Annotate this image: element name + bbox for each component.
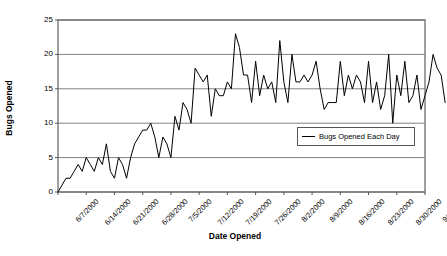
y-tick-label-25: 25 [33, 15, 53, 24]
y-tick-label-15: 15 [33, 84, 53, 93]
legend-item-label: Bugs Opened Each Day [319, 132, 399, 141]
y-tick-label-20: 20 [33, 49, 53, 58]
chart-legend: Bugs Opened Each Day [297, 127, 415, 146]
legend-line-swatch [302, 136, 315, 137]
y-tick-label-10: 10 [33, 118, 53, 127]
y-tick-label-0: 0 [33, 187, 53, 196]
bugs-opened-chart: Bugs Opened Date Opened 0510152025 6/7/2… [0, 0, 447, 256]
y-tick-label-5: 5 [33, 153, 53, 162]
